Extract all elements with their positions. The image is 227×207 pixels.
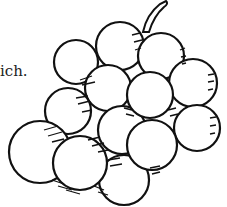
grapes-illustration — [0, 0, 227, 207]
grape-cluster — [9, 22, 220, 205]
stem-icon — [143, 1, 167, 32]
